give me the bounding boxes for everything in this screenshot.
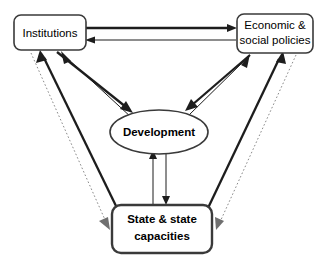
economic-social-policies-label-line1: Economic &: [244, 19, 306, 31]
edge-institutions-to-policies: [86, 24, 237, 32]
edge-state-to-policies: [208, 51, 286, 208]
institutions-label: Institutions: [23, 27, 78, 39]
edge-policies-to-development: [185, 55, 250, 111]
node-economic-social-policies[interactable]: Economic & social policies: [237, 14, 313, 53]
node-institutions[interactable]: Institutions: [14, 15, 86, 50]
edge-policies-to-institutions: [85, 37, 236, 44]
state-capacities-label-line1: State & state: [127, 213, 197, 225]
diagram-root: Institutions Economic & social policies …: [0, 0, 327, 269]
diagram-canvas: Institutions Economic & social policies …: [0, 0, 327, 269]
edge-policies-to-state: [215, 55, 296, 230]
edge-institutions-to-state: [31, 53, 110, 230]
edge-development-to-state: [162, 153, 170, 205]
development-label: Development: [123, 126, 195, 138]
state-capacities-label-line2: capacities: [134, 230, 190, 242]
edge-state-to-development: [149, 150, 157, 205]
economic-social-policies-label-line2: social policies: [240, 34, 311, 46]
node-development[interactable]: Development: [110, 110, 208, 154]
node-state-capacities[interactable]: State & state capacities: [112, 205, 212, 253]
edge-state-to-institutions: [36, 50, 117, 208]
